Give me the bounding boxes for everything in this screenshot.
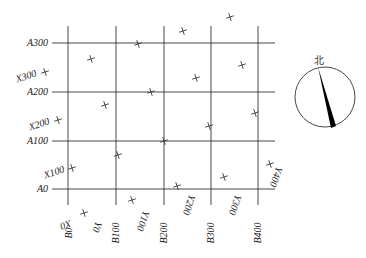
label-b100: B100 [110,222,121,243]
label-y0: Y0 [90,220,104,233]
cross-marker-icon [127,195,137,205]
label-x0: X0 [59,218,74,232]
cross-marker-icon [191,73,201,83]
cross-marker-icon [219,172,229,182]
cross-marker-icon [178,26,188,36]
label-x300: X300 [13,67,37,84]
label-x200: X200 [26,115,50,132]
north-arrow-compass: 北 [295,55,355,128]
north-needle-icon [318,67,336,128]
label-y200: Y200 [181,194,198,217]
label-b200: B200 [158,222,169,243]
label-a300: A300 [26,37,48,48]
label-a100: A100 [26,135,48,146]
label-y100: Y100 [135,210,152,233]
cross-marker-icon [67,163,77,173]
grid-diagram: A300 A200 A100 A0 B0 B100 B200 B300 B400… [0,0,366,258]
cross-marker-icon [113,150,123,160]
cross-marker-icon [172,181,182,191]
label-y400: Y400 [268,166,285,189]
cross-marker-icon [53,115,63,125]
cross-marker-icon [40,67,50,77]
label-x100: X100 [41,163,65,180]
cross-marker-icon [237,60,247,70]
label-b400: B400 [252,222,263,243]
cross-marker-icon [225,12,235,22]
north-label: 北 [314,55,324,66]
label-y300: Y300 [227,194,244,217]
cross-marker-icon [265,159,275,169]
cross-marker-icon [204,121,214,131]
label-a200: A200 [26,86,48,97]
label-a0: A0 [36,183,48,194]
cross-marker-icon [250,108,260,118]
cross-marker-icon [86,54,96,64]
vertical-grid-lines [68,26,258,205]
cross-marker-icon [100,100,110,110]
cross-marker-icon [79,208,89,218]
label-b300: B300 [205,222,216,243]
cross-marker-icon [133,39,143,49]
